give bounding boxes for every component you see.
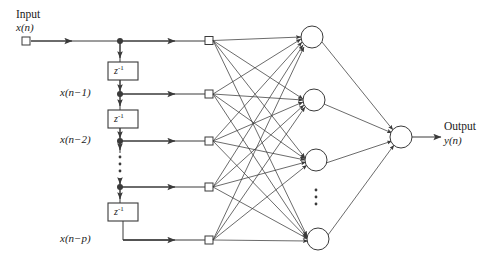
output-layer-node bbox=[390, 126, 412, 148]
input-header-label: Input bbox=[16, 8, 40, 20]
last-tap-route bbox=[123, 221, 170, 240]
output-header-label: Output bbox=[444, 120, 476, 132]
delay-1-exp: -1 bbox=[118, 64, 124, 72]
delay-block-3-label: z-1 bbox=[114, 205, 124, 217]
tap-label-x-n-minus-1: x(n−1) bbox=[60, 87, 91, 99]
delay-line-ellipsis-dots bbox=[119, 156, 122, 173]
delay-2-exp: -1 bbox=[118, 112, 124, 120]
input-to-hidden-connections bbox=[213, 37, 308, 241]
tap-label-x-n-minus-2: x(n−2) bbox=[60, 134, 91, 146]
hidden-to-output-connections bbox=[322, 42, 394, 235]
input-node-squares bbox=[205, 37, 213, 245]
tap-label-x-n-minus-p: x(n−p) bbox=[60, 233, 91, 245]
input-signal-label: x(n) bbox=[16, 22, 34, 34]
input-terminal-square bbox=[22, 37, 30, 45]
tdnn-diagram: Input x(n) z-1 z-1 z-1 x(n−1) x(n−2) x(n… bbox=[0, 0, 487, 262]
delay-3-exp: -1 bbox=[118, 205, 124, 213]
hidden-layer-nodes bbox=[301, 26, 329, 250]
output-signal-label: y(n) bbox=[444, 135, 462, 147]
delay-block-1-label: z-1 bbox=[114, 64, 124, 76]
network-canvas bbox=[0, 0, 487, 262]
delay-block-2-label: z-1 bbox=[114, 112, 124, 124]
hidden-layer-ellipsis-dots bbox=[315, 189, 318, 206]
